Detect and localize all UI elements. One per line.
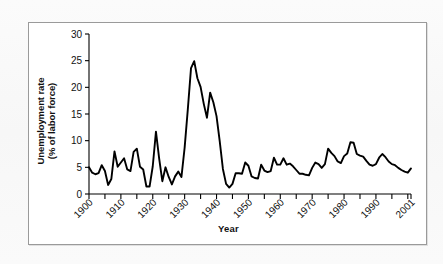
x-tick-label: 1920 bbox=[135, 196, 159, 220]
data-series-group bbox=[89, 61, 411, 187]
y-tick-label: 5 bbox=[76, 162, 82, 173]
x-axis-title: Year bbox=[29, 223, 428, 234]
y-tick-label: 30 bbox=[71, 29, 83, 40]
x-tick-label: 2001 bbox=[393, 196, 417, 220]
y-axis-tick-labels: 051015202530 bbox=[71, 29, 83, 200]
chart-page: 051015202530 190019101920193019401950196… bbox=[0, 0, 443, 264]
y-axis-title: Unemployment rate (% of labor force) bbox=[35, 78, 57, 165]
y-axis-title-line1: Unemployment rate bbox=[35, 78, 46, 165]
unemployment-line-chart: 051015202530 190019101920193019401950196… bbox=[29, 23, 428, 246]
x-axis-tick-labels: 1900191019201930194019501960197019801990… bbox=[71, 196, 417, 220]
series-line-unemployment-rate bbox=[89, 61, 411, 187]
x-tick-label: 1910 bbox=[103, 196, 127, 220]
plot-area: 051015202530 190019101920193019401950196… bbox=[29, 23, 428, 246]
y-tick-label: 0 bbox=[76, 189, 82, 200]
y-tick-label: 20 bbox=[71, 82, 83, 93]
x-tick-label: 1970 bbox=[295, 196, 319, 220]
y-axis-ticks bbox=[85, 34, 89, 194]
x-tick-label: 1990 bbox=[358, 196, 382, 220]
x-tick-label: 1980 bbox=[326, 196, 350, 220]
y-tick-label: 10 bbox=[71, 135, 83, 146]
figure-frame: 051015202530 190019101920193019401950196… bbox=[28, 22, 427, 245]
x-tick-label: 1930 bbox=[167, 196, 191, 220]
y-tick-label: 15 bbox=[71, 109, 83, 120]
x-axis-ticks bbox=[89, 194, 411, 199]
x-tick-label: 1940 bbox=[199, 196, 223, 220]
x-tick-label: 1960 bbox=[263, 196, 287, 220]
x-tick-label: 1950 bbox=[231, 196, 255, 220]
x-tick-label: 1900 bbox=[71, 196, 95, 220]
y-axis-title-wrap: Unemployment rate (% of labor force) bbox=[37, 51, 55, 191]
y-axis-title-line2: (% of labor force) bbox=[46, 83, 57, 159]
y-tick-label: 25 bbox=[71, 55, 83, 66]
